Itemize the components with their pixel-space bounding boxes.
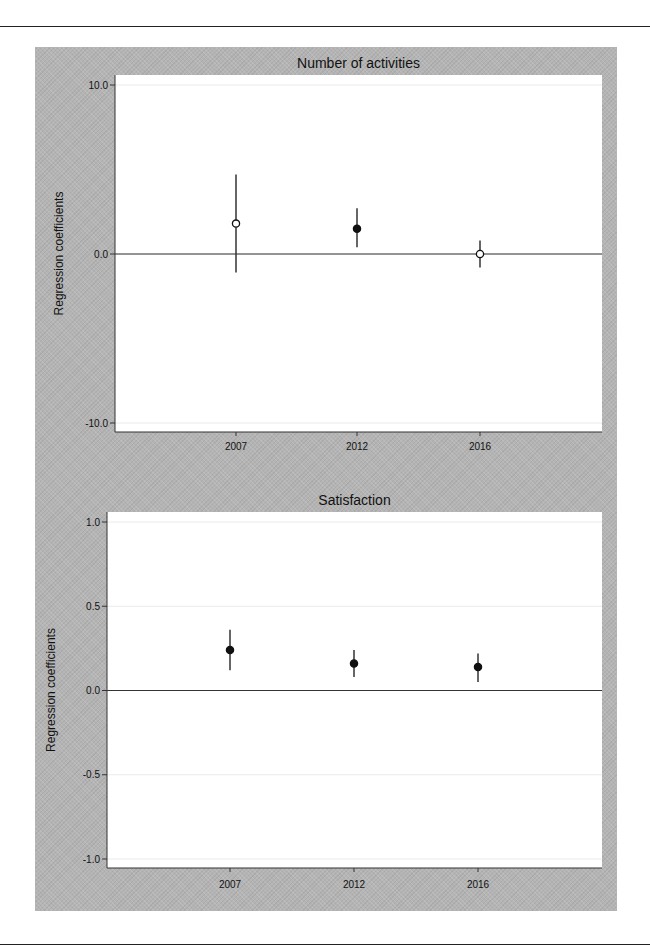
- chart-title: Number of activities: [297, 55, 420, 71]
- filled-point-marker: [353, 225, 360, 232]
- y-tick-label: 10.0: [89, 80, 109, 91]
- charts-canvas: Number of activities10.00.0-10.020072012…: [0, 0, 650, 947]
- y-tick-label: 0.0: [86, 685, 100, 696]
- x-tick-label: 2007: [219, 879, 242, 890]
- y-axis-label: Regression coefficients: [44, 628, 58, 752]
- y-axis-label: Regression coefficients: [52, 192, 66, 316]
- chart-title: Satisfaction: [318, 492, 390, 508]
- y-tick-label: 1.0: [86, 517, 100, 528]
- x-tick-label: 2016: [469, 441, 492, 452]
- x-tick-label: 2016: [467, 879, 490, 890]
- x-tick-label: 2012: [346, 441, 369, 452]
- hollow-point-marker: [476, 250, 483, 257]
- filled-point-marker: [350, 660, 357, 667]
- y-tick-label: 0.5: [86, 601, 100, 612]
- y-tick-label: -1.0: [83, 854, 101, 865]
- hollow-point-marker: [232, 220, 239, 227]
- x-tick-label: 2007: [225, 441, 248, 452]
- y-tick-label: -10.0: [85, 418, 108, 429]
- chart-satisfaction: Satisfaction1.00.50.0-0.5-1.020072012201…: [44, 492, 602, 890]
- chart-number-of-activities: Number of activities10.00.0-10.020072012…: [52, 55, 602, 452]
- x-tick-label: 2012: [343, 879, 366, 890]
- y-tick-label: 0.0: [94, 249, 108, 260]
- filled-point-marker: [474, 663, 481, 670]
- filled-point-marker: [226, 646, 233, 653]
- y-tick-label: -0.5: [83, 769, 101, 780]
